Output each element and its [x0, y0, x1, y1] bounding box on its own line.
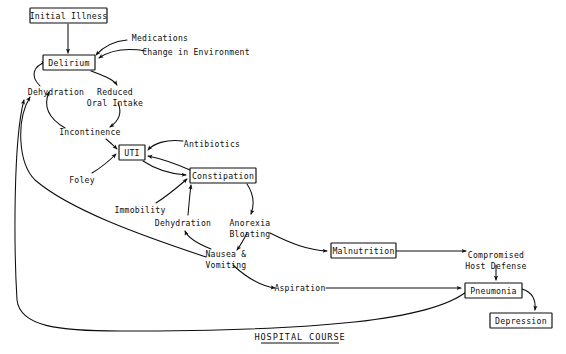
- edge-medications-to-delirium: [96, 40, 127, 55]
- node-anorexia-bloating-label-line2: Bloating: [230, 229, 271, 239]
- node-nausea-vomiting-label-line1: Nausea &: [206, 249, 247, 259]
- boxed-node-layer: Initial Illness Delirium UTI Constipatio…: [30, 8, 552, 328]
- node-incontinence-label: Incontinence: [59, 127, 120, 137]
- diagram-caption: HOSPITAL COURSE: [254, 332, 345, 344]
- edge-anorexia-bloating-to-malnutrition: [270, 233, 327, 251]
- node-constipation-label: Constipation: [192, 171, 254, 181]
- node-depression[interactable]: Depression: [490, 313, 552, 328]
- edge-dehydration-lower-to-constipation: [188, 185, 191, 215]
- edge-nausea-vomiting-to-dehydration-lower: [185, 231, 211, 249]
- edge-constipation-to-anorexia-bloating: [247, 184, 253, 214]
- node-dehydration-upper-label: Dehydration: [28, 87, 84, 97]
- edge-incontinence-to-uti: [106, 139, 117, 149]
- edge-change-in-environment-to-delirium: [99, 49, 146, 58]
- node-compromised-host-defense-label-line2: Host Defense: [465, 261, 526, 271]
- node-malnutrition-label: Malnutrition: [332, 246, 394, 256]
- plain-node-layer: Medications Change in Environment Dehydr…: [28, 33, 527, 293]
- node-medications-label: Medications: [132, 33, 188, 43]
- node-uti-label: UTI: [124, 148, 140, 158]
- node-compromised-host-defense-label-line1: Compromised: [468, 250, 524, 260]
- node-uti[interactable]: UTI: [119, 145, 145, 160]
- node-depression-label: Depression: [495, 316, 547, 326]
- edge-pneumonia-to-depression: [522, 289, 535, 310]
- node-initial-illness-label: Initial Illness: [30, 11, 108, 21]
- diagram-canvas: Initial Illness Delirium UTI Constipatio…: [0, 0, 566, 354]
- node-reduced-oral-intake-label-line1: Reduced: [97, 87, 133, 97]
- node-change-in-environment-label: Change in Environment: [142, 47, 250, 57]
- node-aspiration-label: Aspiration: [274, 283, 325, 293]
- edge-immobility-to-constipation: [156, 179, 187, 203]
- edge-antibiotics-to-uti: [148, 140, 183, 150]
- node-nausea-vomiting-label-line2: Vomiting: [206, 260, 247, 270]
- node-constipation[interactable]: Constipation: [190, 168, 256, 183]
- node-antibiotics-label: Antibiotics: [184, 139, 240, 149]
- edge-constipation-to-uti: [148, 156, 190, 170]
- node-anorexia-bloating-label-line1: Anorexia: [230, 218, 271, 228]
- edge-foley-to-uti: [92, 154, 116, 173]
- node-foley-label: Foley: [69, 175, 95, 185]
- node-delirium-label: Delirium: [48, 58, 89, 68]
- node-reduced-oral-intake-label-line2: Oral Intake: [87, 98, 143, 108]
- node-dehydration-lower-label: Dehydration: [155, 218, 211, 228]
- edge-delirium-to-reduced-oral-intake: [91, 71, 117, 85]
- node-initial-illness[interactable]: Initial Illness: [30, 8, 108, 23]
- hospital-course-diagram: Initial Illness Delirium UTI Constipatio…: [0, 0, 566, 354]
- node-malnutrition[interactable]: Malnutrition: [331, 243, 396, 258]
- edge-incontinence-to-dehydration-upper: [47, 92, 65, 128]
- node-pneumonia-label: Pneumonia: [470, 286, 517, 296]
- node-immobility-label: Immobility: [114, 205, 165, 215]
- node-delirium[interactable]: Delirium: [43, 55, 95, 70]
- node-pneumonia[interactable]: Pneumonia: [465, 283, 522, 298]
- edge-uti-to-constipation: [143, 161, 186, 175]
- edge-nausea-vomiting-to-dehydration-upper: [21, 97, 206, 257]
- caption-text: HOSPITAL COURSE: [254, 332, 345, 342]
